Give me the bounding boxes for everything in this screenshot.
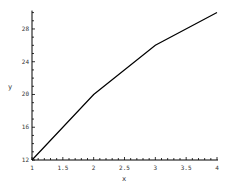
x-tick-label: 1.5 — [57, 164, 68, 171]
x-axis-label: x — [122, 175, 126, 183]
plot-area — [32, 13, 217, 160]
x-tick-label: 1 — [30, 164, 34, 171]
axes: 11.522.533.541216202428 — [22, 11, 219, 171]
x-tick-label: 3 — [154, 164, 158, 171]
x-tick-label: 3.5 — [181, 164, 192, 171]
y-axis-label: y — [8, 83, 12, 91]
data-line — [32, 13, 217, 160]
y-tick-label: 24 — [22, 58, 30, 65]
x-tick-label: 4 — [215, 164, 219, 171]
x-tick-label: 2 — [92, 164, 96, 171]
y-tick-label: 12 — [22, 156, 30, 163]
x-tick-label: 2.5 — [119, 164, 130, 171]
y-tick-label: 20 — [22, 90, 30, 97]
y-tick-label: 16 — [22, 123, 30, 130]
line-chart: 11.522.533.541216202428 x y — [0, 0, 229, 189]
y-tick-label: 28 — [22, 25, 30, 32]
